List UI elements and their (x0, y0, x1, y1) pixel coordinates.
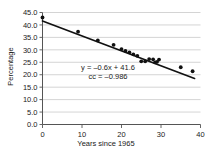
chart-figure: 0.05.010.015.020.025.030.035.040.045.001… (0, 0, 212, 155)
data-point (76, 30, 80, 34)
x-axis-tick-label: 0 (40, 130, 44, 139)
data-point (179, 65, 183, 69)
data-point (157, 58, 161, 62)
y-axis-tick-label: 20.0 (23, 70, 38, 79)
y-axis-tick-label: 40.0 (23, 21, 38, 30)
correlation-coefficient-label: cc = –0.986 (89, 72, 128, 81)
data-point (131, 52, 135, 56)
y-axis-tick-label: 5.0 (27, 108, 37, 117)
data-point (41, 16, 45, 20)
y-axis-tick-label: 0.0 (27, 120, 37, 129)
data-point (139, 59, 143, 63)
data-point (120, 47, 124, 51)
data-point (191, 69, 195, 73)
x-axis-tick-label: 10 (78, 130, 86, 139)
x-axis-title: Years since 1965 (0, 139, 212, 148)
regression-equation-label: y = –0.6x + 41.6 (81, 63, 135, 72)
data-point (112, 43, 116, 47)
y-axis-tick-label: 35.0 (23, 33, 38, 42)
y-axis-tick-label: 30.0 (23, 46, 38, 55)
x-axis-tick-label: 20 (117, 130, 125, 139)
data-point (124, 49, 128, 53)
y-axis-title: Percentage (6, 37, 15, 97)
y-axis-tick-label: 10.0 (23, 95, 38, 104)
data-point (135, 54, 139, 58)
y-axis-tick-label: 25.0 (23, 58, 38, 67)
y-axis-tick-label: 45.0 (23, 8, 38, 17)
scatter-plot: 0.05.010.015.020.025.030.035.040.045.001… (0, 0, 212, 155)
x-axis-tick-label: 40 (196, 130, 204, 139)
data-point (147, 57, 151, 61)
data-point (127, 50, 131, 54)
y-axis-tick-label: 15.0 (23, 83, 38, 92)
x-axis-tick-label: 30 (157, 130, 165, 139)
data-point (143, 59, 147, 63)
data-point (96, 38, 100, 42)
